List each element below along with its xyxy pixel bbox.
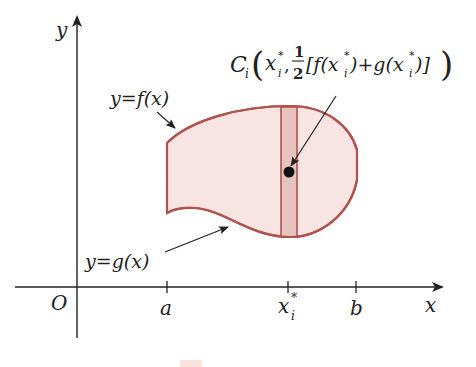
svg-text:1: 1 [294, 43, 304, 61]
centroid-point [284, 167, 295, 178]
svg-text:[f(x: [f(x [306, 53, 339, 75]
origin-label: O [51, 291, 67, 315]
g-curve-label: y=g(x) [84, 250, 149, 272]
tick-label-xi-star-sup: * [291, 291, 297, 305]
centroid-label: C i ( x i * , 1 2 [f(x i * )+g(x i * )] … [230, 43, 453, 84]
region-fill [167, 106, 357, 237]
y-axis-label: y [55, 18, 68, 42]
g-pointer-arrow [165, 227, 228, 252]
svg-text:i: i [245, 67, 249, 81]
svg-text:(: ( [251, 44, 264, 84]
f-pointer-arrow [157, 112, 175, 128]
svg-text:): ) [440, 44, 453, 84]
svg-text:,: , [284, 54, 290, 75]
page-artifact [180, 360, 202, 367]
svg-text:2: 2 [293, 65, 303, 83]
tick-label-xi-star: x [278, 294, 289, 318]
tick-label-xi-star-sub: i [291, 309, 295, 323]
svg-text:i: i [409, 67, 413, 80]
svg-text:x: x [265, 51, 276, 75]
f-curve-label: y=f(x) [109, 87, 169, 109]
diagram-canvas: y x O a x i * b y=f(x) y=g(x) C i ( x i … [0, 0, 476, 367]
svg-text:)]: )] [414, 53, 430, 75]
svg-text:i: i [278, 67, 282, 80]
svg-text:)+g(x: )+g(x [349, 53, 404, 75]
svg-text:i: i [344, 67, 348, 80]
tick-label-a: a [160, 296, 172, 320]
tick-label-b: b [350, 296, 363, 320]
x-axis-label: x [425, 293, 436, 317]
